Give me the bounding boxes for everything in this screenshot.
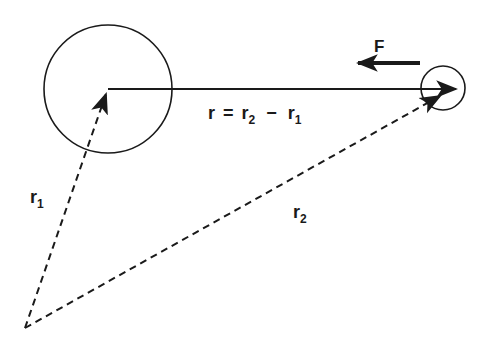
diagram-canvas: F r = r2 − r1 r1 r2	[0, 0, 494, 338]
relation-label: r = r2 − r1	[208, 103, 302, 128]
position-vector-r1	[25, 94, 106, 328]
r2-label: r2	[293, 202, 307, 226]
position-vector-r2	[25, 96, 440, 328]
r1-label: r1	[30, 187, 44, 211]
force-label: F	[374, 37, 384, 56]
